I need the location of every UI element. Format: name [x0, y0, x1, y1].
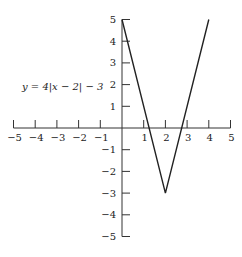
y-tick-label: −1	[101, 144, 116, 155]
y-tick-label: 5	[110, 14, 116, 25]
x-tick-label: −2	[72, 132, 87, 143]
x-tick-label: −4	[29, 132, 44, 143]
x-tick-label: 4	[207, 132, 213, 143]
y-tick-label: 4	[110, 36, 116, 47]
function-graph-line	[122, 20, 209, 194]
x-tick-label: 3	[185, 132, 191, 143]
axes	[14, 20, 231, 237]
y-tick-label: −4	[101, 209, 116, 220]
y-tick-label: −5	[101, 231, 116, 242]
y-tick-label: 2	[110, 79, 116, 90]
chart-plot: −5−4−3−2−11234554321−1−2−3−4−5 y = 4|x −…	[0, 0, 242, 257]
y-tick-label: 1	[110, 101, 116, 112]
y-tick-label: −3	[101, 188, 116, 199]
x-tick-label: −5	[7, 132, 22, 143]
x-tick-label: −1	[94, 132, 109, 143]
series	[122, 20, 209, 194]
y-tick-label: 3	[110, 57, 116, 68]
x-tick-label: 5	[228, 132, 234, 143]
x-tick-label: 2	[163, 132, 169, 143]
x-tick-label: 1	[142, 132, 148, 143]
equation-label: y = 4|x − 2| − 3	[21, 81, 103, 93]
x-tick-label: −3	[51, 132, 66, 143]
y-tick-label: −2	[101, 166, 116, 177]
